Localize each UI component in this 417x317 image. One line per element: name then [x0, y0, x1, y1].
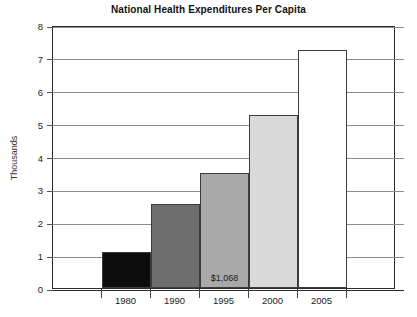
y-axis-tick	[47, 158, 53, 159]
y-axis-tick	[47, 59, 53, 60]
y-axis-title: Thousands	[9, 113, 19, 203]
gridline	[53, 27, 404, 28]
x-axis-label-1990: 1990	[147, 296, 203, 306]
y-axis-tick	[47, 257, 53, 258]
bar-value-label-1995: $1,068	[201, 273, 248, 283]
y-axis-label: 0	[21, 285, 43, 295]
bar-1980	[102, 252, 151, 288]
y-axis-label: 1	[21, 252, 43, 262]
y-axis-tick	[47, 27, 53, 28]
y-axis-label: 5	[21, 121, 43, 131]
gridline	[53, 92, 404, 93]
gridline	[53, 59, 404, 60]
y-axis-tick	[47, 290, 53, 291]
bar-1995: $1,068	[200, 173, 249, 288]
y-axis-tick	[47, 125, 53, 126]
y-axis-label: 3	[21, 186, 43, 196]
plot-area: 012345678$1,068	[52, 26, 395, 289]
y-axis-tick	[47, 92, 53, 93]
x-axis-label-2000: 2000	[245, 296, 301, 306]
y-axis-label: 4	[21, 154, 43, 164]
bar-2000	[249, 115, 298, 288]
bar-2005	[298, 50, 347, 288]
y-axis-label: 7	[21, 55, 43, 65]
gridline	[53, 158, 404, 159]
y-axis-tick	[47, 191, 53, 192]
y-axis-label: 8	[21, 22, 43, 32]
y-axis-label: 2	[21, 219, 43, 229]
y-axis-tick	[47, 224, 53, 225]
x-axis-label-1995: 1995	[196, 296, 252, 306]
gridline	[53, 290, 404, 291]
y-axis-label: 6	[21, 88, 43, 98]
bar-1990	[151, 204, 200, 288]
x-axis-label-2005: 2005	[294, 296, 350, 306]
x-axis-label-1980: 1980	[98, 296, 154, 306]
chart-title: National Health Expenditures Per Capita	[0, 4, 417, 15]
gridline	[53, 125, 404, 126]
